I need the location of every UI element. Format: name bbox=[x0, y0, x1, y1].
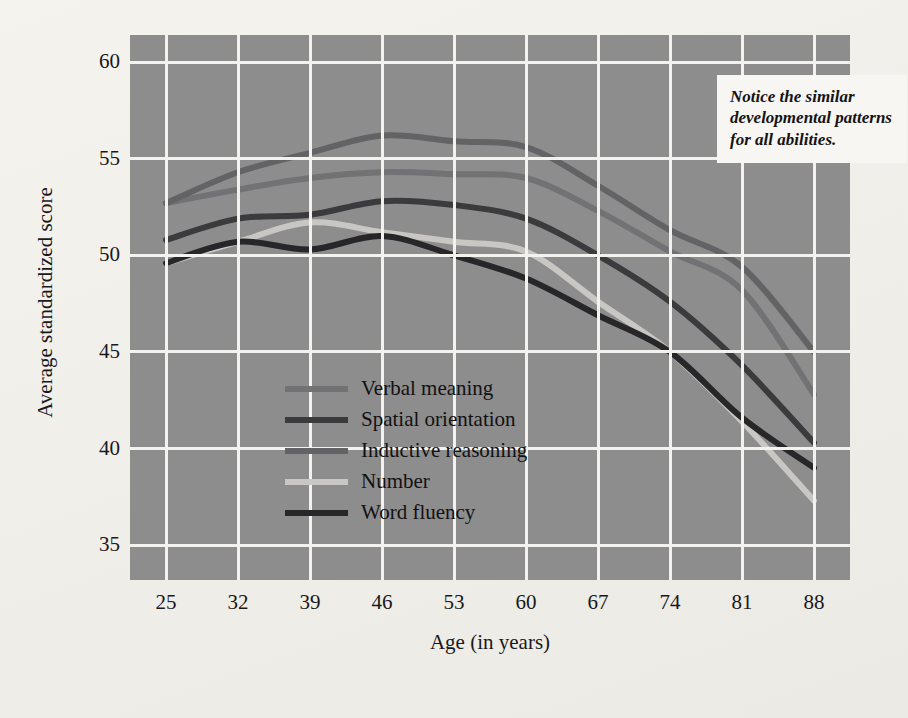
figure-canvas: Verbal meaningSpatial orientationInducti… bbox=[0, 0, 908, 718]
y-axis-tick-labels: 354045505560 bbox=[62, 35, 120, 580]
y-tick-label-50: 50 bbox=[68, 244, 120, 265]
legend-label: Word fluency bbox=[361, 502, 475, 523]
y-tick-label-40: 40 bbox=[68, 438, 120, 459]
y-tick-label-45: 45 bbox=[68, 341, 120, 362]
y-tick-label-35: 35 bbox=[68, 534, 120, 555]
gridline-x-67 bbox=[597, 35, 600, 580]
y-tick-label-55: 55 bbox=[68, 148, 120, 169]
annotation-callout: Notice the similar developmental pattern… bbox=[717, 75, 907, 163]
annotation-callout-text: Notice the similar developmental pattern… bbox=[730, 86, 895, 150]
x-axis-title: Age (in years) bbox=[130, 630, 850, 655]
legend-label: Number bbox=[361, 471, 430, 492]
x-tick-label-53: 53 bbox=[429, 590, 479, 615]
legend-item-inductive-reasoning: Inductive reasoning bbox=[285, 435, 527, 466]
x-axis-tick-labels: 25323946536067748188 bbox=[130, 590, 850, 620]
y-axis-title: Average standardized score bbox=[33, 138, 58, 468]
x-tick-label-60: 60 bbox=[501, 590, 551, 615]
legend-item-spatial-orientation: Spatial orientation bbox=[285, 404, 527, 435]
x-tick-label-67: 67 bbox=[573, 590, 623, 615]
x-tick-label-46: 46 bbox=[357, 590, 407, 615]
legend-swatch-word-fluency bbox=[285, 510, 348, 516]
series-line-verbal-meaning bbox=[166, 172, 814, 394]
x-tick-label-74: 74 bbox=[645, 590, 695, 615]
legend-swatch-spatial-orientation bbox=[285, 417, 348, 423]
legend-label: Inductive reasoning bbox=[361, 440, 527, 461]
legend-label: Verbal meaning bbox=[361, 378, 493, 399]
legend-swatch-number bbox=[285, 479, 348, 485]
legend-item-verbal-meaning: Verbal meaning bbox=[285, 373, 527, 404]
legend-item-word-fluency: Word fluency bbox=[285, 497, 527, 528]
legend: Verbal meaningSpatial orientationInducti… bbox=[285, 373, 527, 528]
gridline-x-25 bbox=[165, 35, 168, 580]
legend-swatch-inductive-reasoning bbox=[285, 448, 348, 454]
legend-label: Spatial orientation bbox=[361, 409, 516, 430]
gridline-x-32 bbox=[237, 35, 240, 580]
x-tick-label-25: 25 bbox=[141, 590, 191, 615]
plot-area: Verbal meaningSpatial orientationInducti… bbox=[130, 35, 850, 580]
x-tick-label-81: 81 bbox=[717, 590, 767, 615]
legend-swatch-verbal-meaning bbox=[285, 386, 348, 392]
y-tick-label-60: 60 bbox=[68, 51, 120, 72]
gridline-x-74 bbox=[669, 35, 672, 580]
legend-item-number: Number bbox=[285, 466, 527, 497]
x-tick-label-32: 32 bbox=[213, 590, 263, 615]
x-tick-label-39: 39 bbox=[285, 590, 335, 615]
x-tick-label-88: 88 bbox=[789, 590, 839, 615]
